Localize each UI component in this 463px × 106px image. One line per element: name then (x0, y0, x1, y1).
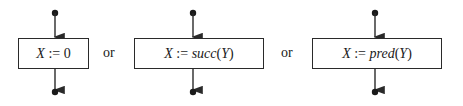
assign-zero-box: X := 0 (18, 38, 89, 69)
assign-operator: := (45, 46, 64, 62)
exit-dot-icon (372, 89, 378, 95)
function-name: pred (370, 46, 395, 62)
close-paren: ) (407, 46, 412, 62)
target-variable: X (342, 46, 351, 62)
exit-dot-icon (190, 89, 196, 95)
target-variable: X (164, 46, 173, 62)
or-separator: or (281, 45, 293, 61)
constant-value: 0 (64, 46, 71, 62)
assign-operator: := (351, 46, 370, 62)
function-name: succ (192, 46, 217, 62)
exit-dot-icon (52, 89, 58, 95)
or-separator: or (103, 45, 115, 61)
argument-variable: Y (399, 46, 407, 62)
assign-pred-box: X := pred(Y) (312, 38, 442, 69)
target-variable: X (36, 46, 45, 62)
close-paren: ) (229, 46, 234, 62)
argument-variable: Y (221, 46, 229, 62)
assign-succ-box: X := succ(Y) (134, 38, 264, 69)
assign-operator: := (173, 46, 192, 62)
